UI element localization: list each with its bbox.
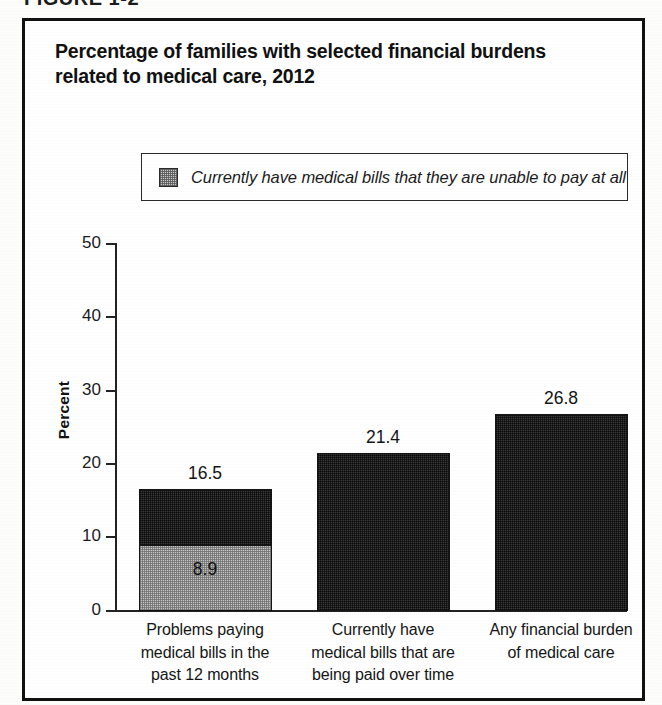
bar-1-total-label: 16.5 xyxy=(135,463,275,484)
bar-1-segment-label: 8.9 xyxy=(135,559,275,580)
y-tick-label-0: 0 xyxy=(61,600,101,620)
bar-1-upper-segment xyxy=(139,489,272,546)
x-category-2-line-2: medical bills that are xyxy=(311,644,455,661)
x-category-1-line-2: medical bills in the xyxy=(141,644,270,661)
y-tick-0 xyxy=(106,610,115,612)
x-category-3-line-2: of medical care xyxy=(508,644,615,661)
x-category-3-line-1: Any financial burden xyxy=(490,621,633,638)
y-tick-40 xyxy=(106,316,115,318)
y-axis-title: Percent xyxy=(55,355,73,465)
y-tick-label-50: 50 xyxy=(61,233,101,253)
x-category-1-line-1: Problems paying xyxy=(146,621,264,638)
x-category-2-line-1: Currently have xyxy=(332,621,435,638)
y-axis-line xyxy=(115,243,117,611)
y-tick-label-30: 30 xyxy=(61,380,101,400)
x-category-label-2: Currently have medical bills that are be… xyxy=(295,619,471,687)
bar-2 xyxy=(317,453,450,611)
figure-page: FIGURE 1-2 Percentage of families with s… xyxy=(0,0,662,705)
figure-frame: Percentage of families with selected fin… xyxy=(22,18,645,701)
y-tick-label-10: 10 xyxy=(61,526,101,546)
x-category-label-3: Any financial burden of medical care xyxy=(473,619,649,664)
bar-2-total-label: 21.4 xyxy=(313,427,453,448)
x-category-1-line-3: past 12 months xyxy=(151,666,259,683)
y-tick-label-20: 20 xyxy=(61,453,101,473)
y-tick-10 xyxy=(106,536,115,538)
figure-number-tag: FIGURE 1-2 xyxy=(24,0,139,9)
bar-3-total-label: 26.8 xyxy=(491,388,631,409)
x-category-label-1: Problems paying medical bills in the pas… xyxy=(117,619,293,687)
y-tick-50 xyxy=(106,243,115,245)
x-category-2-line-3: being paid over time xyxy=(312,666,454,683)
bar-3 xyxy=(495,414,628,611)
y-tick-label-40: 40 xyxy=(61,306,101,326)
y-tick-20 xyxy=(106,463,115,465)
plot-area: Percent 0 10 20 30 40 50 16.5 8.9 21.4 xyxy=(25,21,648,704)
y-tick-30 xyxy=(106,390,115,392)
